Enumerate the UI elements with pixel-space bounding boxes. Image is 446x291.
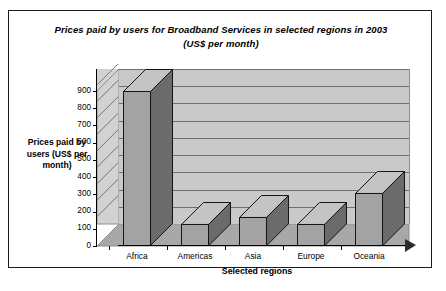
screenshot-root: Prices paid by users for Broadband Servi… bbox=[0, 0, 446, 291]
y-axis-line bbox=[96, 69, 97, 224]
y-tick-mark bbox=[93, 229, 97, 230]
x-label-europe: Europe bbox=[281, 251, 341, 261]
bar-shape bbox=[181, 202, 231, 246]
x-tick-mark bbox=[283, 246, 284, 250]
chart-title-line-1: Prices paid by users for Broadband Servi… bbox=[9, 23, 433, 37]
bar-shape bbox=[297, 202, 347, 246]
bar-americas bbox=[181, 202, 231, 246]
x-axis-arrow-icon bbox=[405, 239, 417, 253]
y-tick-mark bbox=[93, 143, 97, 144]
x-label-americas: Americas bbox=[165, 251, 225, 261]
y-tick-mark bbox=[93, 246, 97, 247]
y-tick-label: 100 bbox=[61, 224, 91, 232]
bar-shape bbox=[355, 171, 405, 246]
chart-title: Prices paid by users for Broadband Servi… bbox=[9, 23, 433, 51]
x-label-africa: Africa bbox=[107, 251, 167, 261]
chart-left-wall bbox=[97, 69, 119, 224]
y-tick-mark bbox=[93, 194, 97, 195]
bar-shape bbox=[239, 195, 289, 246]
x-tick-mark bbox=[341, 246, 342, 250]
y-tick-mark bbox=[93, 125, 97, 126]
y-tick-label: 600 bbox=[61, 138, 91, 146]
x-axis-title: Selected regions bbox=[97, 266, 417, 276]
y-tick-label: 800 bbox=[61, 104, 91, 112]
bar-shape bbox=[123, 69, 173, 246]
x-tick-mark bbox=[167, 246, 168, 250]
x-label-oceania: Oceania bbox=[339, 251, 399, 261]
y-tick-label: 700 bbox=[61, 121, 91, 129]
y-tick-mark bbox=[93, 108, 97, 109]
y-tick-label: 300 bbox=[61, 190, 91, 198]
left-wall-shape bbox=[97, 69, 120, 225]
x-tick-mark bbox=[109, 246, 110, 250]
y-tick-mark bbox=[93, 212, 97, 213]
y-tick-mark bbox=[93, 177, 97, 178]
x-label-asia: Asia bbox=[223, 251, 283, 261]
chart-title-line-2: (US$ per month) bbox=[9, 37, 433, 51]
y-tick-label: 200 bbox=[61, 207, 91, 215]
y-tick-label: 400 bbox=[61, 173, 91, 181]
y-tick-mark bbox=[93, 160, 97, 161]
y-tick-label: 900 bbox=[61, 87, 91, 95]
chart-panel: Prices paid by users for Broadband Servi… bbox=[8, 10, 432, 268]
bar-africa bbox=[123, 69, 173, 246]
y-axis-base-line bbox=[96, 224, 97, 246]
x-tick-mark bbox=[225, 246, 226, 250]
bar-asia bbox=[239, 195, 289, 246]
y-tick-label: 0 bbox=[61, 242, 91, 250]
y-tick-label: 500 bbox=[61, 155, 91, 163]
bar-oceania bbox=[355, 171, 405, 246]
x-axis-line bbox=[118, 245, 410, 246]
bar-europe bbox=[297, 202, 347, 246]
y-tick-mark bbox=[93, 91, 97, 92]
plot-area: 0100200300400500600700800900 AfricaAmeri… bbox=[97, 61, 417, 246]
